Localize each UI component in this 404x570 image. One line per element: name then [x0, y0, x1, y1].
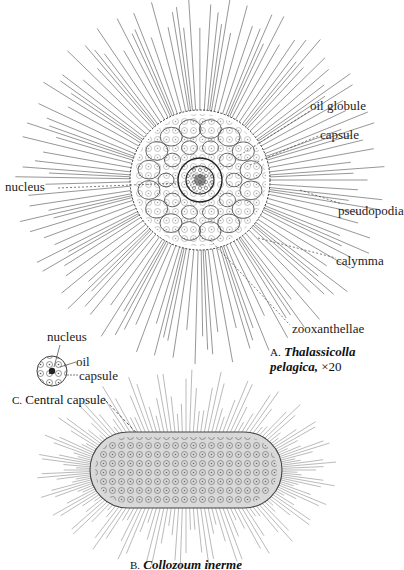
central-capsule-diagram [37, 345, 78, 386]
label-calymma: calymma [336, 254, 384, 267]
label-nucleus: nucleus [5, 180, 45, 193]
caption-c-name: Central capsule [25, 392, 106, 407]
label-capsule: capsule [320, 128, 359, 141]
label-oil-globule: oil globule [310, 99, 366, 112]
thalassicolla-body [130, 110, 270, 250]
label-c-capsule: capsule [79, 369, 118, 382]
caption-a-genus: Thalassicolla [284, 344, 356, 359]
label-c-nucleus: nucleus [47, 330, 87, 343]
collozoum-body [90, 432, 282, 508]
caption-figure-b: B. Collozoum inerme [130, 558, 242, 570]
caption-figure-c: C. Central capsule [12, 393, 106, 408]
caption-a-letter: A. [270, 346, 281, 358]
caption-a-magnification: ×20 [321, 359, 341, 374]
label-zooxanthellae: zooxanthellae [292, 322, 364, 335]
caption-b-letter: B. [130, 559, 140, 570]
label-pseudopodia: pseudopodia [338, 204, 404, 217]
caption-b-name: Collozoum inerme [143, 557, 242, 570]
label-c-oil: oil [76, 355, 90, 368]
caption-figure-a: A. Thalassicolla pelagica, ×20 [270, 345, 355, 375]
caption-c-letter: C. [12, 394, 22, 406]
caption-a-species: pelagica, [270, 359, 318, 374]
